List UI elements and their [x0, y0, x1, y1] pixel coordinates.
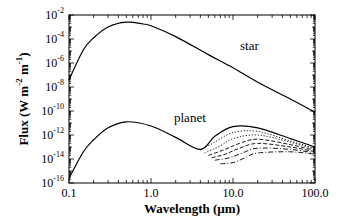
y-axis-label: Flux (W m-2 m-1) [14, 52, 31, 145]
plot-frame [69, 15, 315, 183]
series-line [212, 143, 315, 157]
y-tick-label: 10-14 [41, 150, 64, 166]
series-line [215, 148, 315, 160]
planet-annotation: planet [174, 110, 206, 125]
y-tick-label: 10-8 [45, 78, 64, 94]
x-tick-label: 0.1 [62, 186, 77, 200]
x-tick-labels: 0.1 1.0 10.0 100.0 [62, 186, 329, 200]
star-annotation: star [240, 38, 259, 53]
y-tick-label: 10-4 [45, 30, 64, 46]
series-line [205, 135, 315, 153]
series-line [69, 22, 315, 112]
y-tick-label: 10-2 [45, 6, 64, 22]
y-tick-label: 10-10 [41, 102, 64, 118]
series-line [69, 122, 315, 178]
axis-ticks [69, 15, 315, 183]
series-curves [69, 22, 315, 178]
x-tick-label: 10.0 [223, 186, 244, 200]
flux-chart: 0.1 1.0 10.0 100.0 Wavelength (µm) 10-21… [0, 0, 348, 223]
x-tick-label: 100.0 [302, 186, 329, 200]
x-axis-label: Wavelength (µm) [144, 201, 240, 216]
y-tick-label: 10-12 [41, 126, 64, 142]
x-tick-label: 1.0 [144, 186, 159, 200]
svg-text:Flux (W m-2 m-1): Flux (W m-2 m-1) [14, 52, 31, 145]
series-line [220, 152, 315, 164]
y-tick-label: 10-6 [45, 54, 64, 70]
y-tick-labels: 10-210-410-610-810-1010-1210-1410-16 [41, 6, 64, 190]
